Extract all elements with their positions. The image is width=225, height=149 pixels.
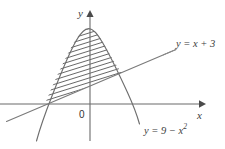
shaded-region [30,4,140,111]
line-equation-label: y = x + 3 [176,39,215,50]
parabola-equation-exponent: 2 [183,122,187,131]
line-label-leader [163,50,176,56]
graph-canvas [0,0,225,149]
x-axis-arrowhead [199,100,206,108]
parabola-equation-base: y = 9 − x [144,125,183,136]
y-axis-arrowhead [86,10,93,17]
origin-label: 0 [79,110,85,120]
x-axis-label: x [197,110,202,121]
x-axis [0,100,206,108]
y-axis-label: y [78,8,83,19]
parabola-equation-label: y = 9 − x2 [144,123,187,136]
region-hatching [30,4,140,111]
math-graph-figure: y x 0 y = x + 3 y = 9 − x2 [0,0,225,149]
